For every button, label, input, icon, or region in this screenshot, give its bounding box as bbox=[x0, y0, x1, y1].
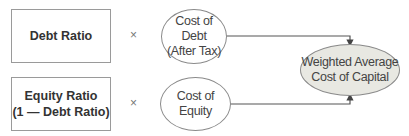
connector-equity-to-wacc bbox=[230, 97, 350, 104]
debt-ratio-label: Debt Ratio bbox=[30, 28, 93, 44]
debt-ratio-box: Debt Ratio bbox=[11, 9, 111, 63]
cost-of-equity-label: Cost of Equity bbox=[161, 89, 230, 119]
cost-of-debt-subtitle: (After Tax) bbox=[162, 44, 226, 59]
equity-ratio-box: Equity Ratio (1 — Debt Ratio) bbox=[11, 77, 111, 131]
equity-ratio-label: Equity Ratio bbox=[12, 88, 109, 104]
cost-of-debt-node: Cost of Debt (After Tax) bbox=[161, 9, 227, 64]
equity-ratio-formula: (1 — Debt Ratio) bbox=[12, 104, 109, 120]
connector-debt-to-wacc bbox=[226, 36, 350, 43]
multiply-operator-debt: × bbox=[130, 28, 137, 42]
multiply-operator-equity: × bbox=[130, 96, 137, 110]
wacc-label-line1: Weighted Average bbox=[302, 55, 399, 70]
wacc-node: Weighted Average Cost of Capital bbox=[300, 44, 400, 96]
wacc-label-line2: Cost of Capital bbox=[302, 70, 399, 85]
cost-of-equity-node: Cost of Equity bbox=[160, 77, 231, 131]
cost-of-debt-label: Cost of Debt bbox=[162, 14, 226, 44]
